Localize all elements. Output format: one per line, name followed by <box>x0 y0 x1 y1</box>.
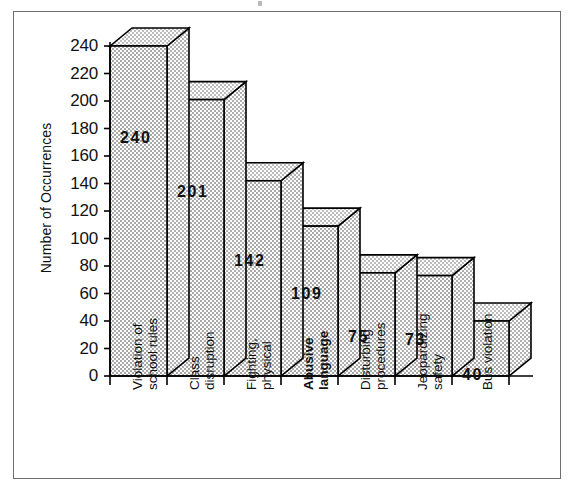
y-tick-label-40: 40 <box>52 312 98 329</box>
x-category-label-5-line-0: Jeopardizing <box>415 313 430 390</box>
chart-figure: 020406080100120140160180200220240 Number… <box>0 0 584 498</box>
y-tick-label-100: 100 <box>52 230 98 247</box>
x-category-label-3-line-0: Abusive <box>301 331 316 390</box>
plot-area: 020406080100120140160180200220240 Number… <box>0 0 584 498</box>
y-tick-label-240: 240 <box>52 37 98 54</box>
bars-layer <box>110 28 531 376</box>
x-category-label-5: Jeopardizingsafety <box>415 313 445 390</box>
y-tick-label-140: 140 <box>52 175 98 192</box>
x-category-label-3-line-1: language <box>316 331 331 390</box>
y-tick-label-200: 200 <box>52 92 98 109</box>
bar-value-label-6: 40 <box>462 367 483 383</box>
x-category-label-0: Violation ofschool rules <box>130 318 160 390</box>
bar-value-label-0: 240 <box>120 130 152 146</box>
x-category-label-3: Abusivelanguage <box>301 331 331 390</box>
x-category-label-2: Fighting,physical <box>244 338 274 390</box>
bar-value-label-2: 142 <box>234 253 266 269</box>
y-tick-label-160: 160 <box>52 147 98 164</box>
bar-value-label-1: 201 <box>177 184 209 200</box>
bar-value-label-4: 75 <box>348 329 369 345</box>
x-category-label-2-line-0: Fighting, <box>244 338 259 390</box>
y-tick-label-120: 120 <box>52 202 98 219</box>
bar-value-label-5: 73 <box>405 332 426 348</box>
y-tick-label-60: 60 <box>52 285 98 302</box>
x-category-label-1: Classdisruption <box>187 331 217 390</box>
y-axis-title: Number of Occurrences <box>38 108 54 288</box>
x-category-label-1-line-1: disruption <box>202 331 217 390</box>
x-category-label-4-line-1: procedures <box>373 322 388 390</box>
y-tick-label-0: 0 <box>52 367 98 384</box>
x-category-label-5-line-1: safety <box>430 313 445 390</box>
y-tick-label-180: 180 <box>52 120 98 137</box>
x-category-label-1-line-0: Class <box>187 331 202 390</box>
x-category-label-0-line-0: Violation of <box>130 318 145 390</box>
y-tick-label-220: 220 <box>52 65 98 82</box>
x-category-label-2-line-1: physical <box>259 338 274 390</box>
x-category-label-0-line-1: school rules <box>145 318 160 390</box>
y-tick-label-20: 20 <box>52 340 98 357</box>
y-tick-label-80: 80 <box>52 257 98 274</box>
bar-value-label-3: 109 <box>291 286 323 302</box>
